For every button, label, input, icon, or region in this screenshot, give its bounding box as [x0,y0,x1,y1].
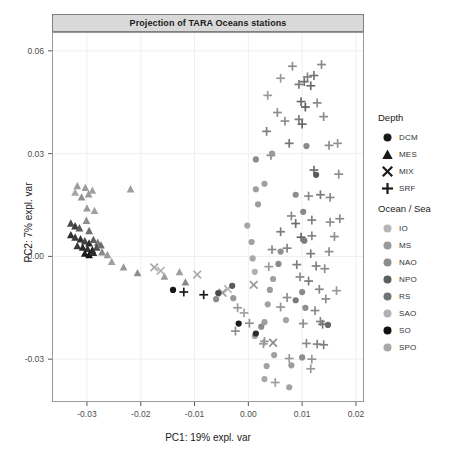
legend-ocean-item-sao[interactable]: SAO [378,305,431,322]
data-point-triangle [83,204,91,211]
data-point-circle [264,363,270,369]
data-point-circle [253,186,259,192]
data-point-plus [310,71,319,80]
data-point-plus [307,355,316,364]
data-point-plus [335,214,344,223]
data-point-plus [240,309,249,318]
legend-ocean-label: NPO [399,275,417,284]
legend-key-circle-icon [381,273,394,286]
data-point-circle [265,301,271,307]
data-point-cross [269,339,277,347]
x-tick-label: 0.01 [282,409,322,419]
data-point-circle [248,239,254,245]
data-point-plus [276,227,285,236]
data-point-circle [271,352,277,358]
legend-ocean-key [378,341,396,354]
data-point-triangle [127,185,135,192]
legend-key-circle-icon [381,239,394,252]
legend-depth-item-dcm[interactable]: DCM [378,129,418,146]
data-point-plus [262,127,271,136]
data-point-plus [315,285,324,294]
legend-depth-key [378,148,396,161]
circle-icon [383,134,391,142]
legend-ocean-item-spo[interactable]: SPO [378,339,431,356]
legend-ocean-item-ms[interactable]: MS [378,237,431,254]
data-point-circle [229,283,235,289]
triangle-icon [382,150,392,160]
legend-ocean-item-nao[interactable]: NAO [378,254,431,271]
data-point-circle [313,172,319,178]
legend-ocean-label: MS [399,241,411,250]
data-point-plus [281,117,290,126]
data-point-plus [304,277,313,286]
legend-key-cross-x-icon [381,165,394,178]
data-point-circle [253,156,259,162]
data-point-plus [325,247,334,256]
legend-ocean-item-npo[interactable]: NPO [378,271,431,288]
legend-depth-item-mes[interactable]: MES [378,146,418,163]
data-point-plus [313,99,322,108]
data-point-plus [273,108,282,117]
legend-key-circle-icon [381,290,394,303]
legend-ocean-key [378,222,396,235]
data-point-plus [297,97,306,106]
data-point-triangle [85,227,93,234]
legend-key-circle-icon [381,222,394,235]
data-point-circle [261,181,267,187]
legend-key-triangle-icon [381,148,394,161]
data-point-triangle [91,207,99,214]
data-point-plus [333,139,342,148]
legend-ocean-item-rs[interactable]: RS [378,288,431,305]
data-point-circle [283,317,289,323]
circle-icon [383,276,391,284]
data-point-circle [325,322,331,328]
legend-ocean-item-io[interactable]: IO [378,220,431,237]
data-point-plus [283,293,292,302]
data-point-triangle [78,193,86,200]
data-point-plus [271,378,280,387]
legend-key-circle-icon [381,341,394,354]
legend-ocean-label: SPO [399,343,417,352]
legend-key-plus-icon [381,182,394,195]
circle-icon [383,225,391,233]
data-point-plus [320,264,329,273]
tick-marks [48,51,356,406]
data-point-plus [304,192,313,201]
data-point-plus [319,112,328,121]
data-point-circle [288,362,294,368]
legend-ocean-key [378,273,396,286]
data-point-plus [334,170,343,179]
data-point-plus [291,219,300,228]
legend-depth-label: MIX [399,167,414,176]
legend-depth-item-srf[interactable]: SRF [378,180,418,197]
data-point-plus [332,286,341,295]
data-point-plus [245,319,254,328]
data-point-plus [276,74,285,83]
data-point-plus [302,339,311,348]
data-point-circle [278,249,284,255]
data-point-plus [263,91,272,100]
legend-key-circle-icon [381,324,394,337]
legend-ocean-key [378,324,396,337]
legend-depth-item-mix[interactable]: MIX [378,163,418,180]
data-point-triangle [71,188,79,195]
data-point-plus [330,232,339,241]
legend-ocean-key [378,290,396,303]
x-tick-label: 0.02 [336,409,376,419]
legend-ocean-item-so[interactable]: SO [378,322,431,339]
data-point-plus [179,288,188,297]
data-point-plus [276,303,285,312]
data-point-triangle [83,217,91,224]
data-point-circle [299,354,305,360]
data-point-triangle [120,263,128,270]
data-point-plus [321,294,330,303]
y-tick-label: -0.03 [4,354,44,364]
x-tick-label: -0.03 [67,409,107,419]
legend-depth-key [378,182,396,195]
legend-depth-key [378,131,396,144]
data-point-plus [287,212,296,221]
data-point-plus [316,190,325,199]
x-tick-label: -0.01 [175,409,215,419]
data-point-plus [296,273,305,282]
data-point-circle [261,319,267,325]
